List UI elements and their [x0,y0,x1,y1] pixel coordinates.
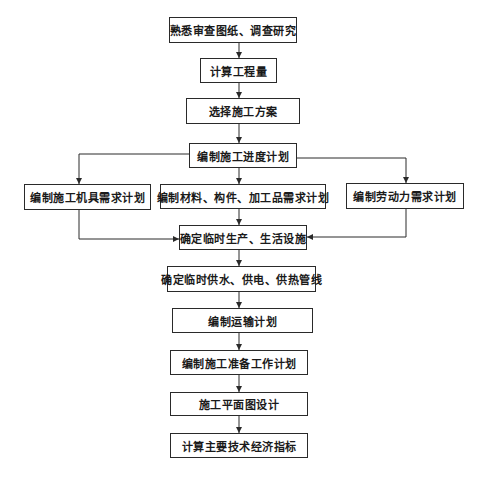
node-materials-plan: 编制材料、构件、加工品需求计划 [160,184,326,209]
node-temp-facilities: 确定临时生产、生活设施 [179,225,307,250]
node-equipment-plan: 编制施工机具需求计划 [24,184,151,210]
edge-n4-n5-arrow [79,154,189,184]
node-progress-plan: 编制施工进度计划 [189,143,297,168]
node-review-drawings: 熟悉审查图纸、调查研究 [169,17,297,43]
node-calc-quantities: 计算工程量 [200,58,277,83]
edge-n4-n7-arrow [297,158,406,183]
node-select-scheme: 选择施工方案 [186,98,300,124]
edge-n7-n8-arrow [307,209,406,237]
node-preparation-plan: 编制施工准备工作计划 [170,350,308,375]
node-temp-utilities: 确定临时供水、供电、供热管线 [167,266,316,292]
edge-n5-n8-arrow [79,210,179,239]
node-econ-indicators: 计算主要技术经济指标 [170,433,308,458]
flowchart: 熟悉审查图纸、调查研究 计算工程量 选择施工方案 编制施工进度计划 编制施工机具… [0,0,484,479]
node-site-layout: 施工平面图设计 [170,392,308,416]
node-transport-plan: 编制运输计划 [172,308,313,333]
node-labor-plan: 编制劳动力需求计划 [346,183,464,209]
